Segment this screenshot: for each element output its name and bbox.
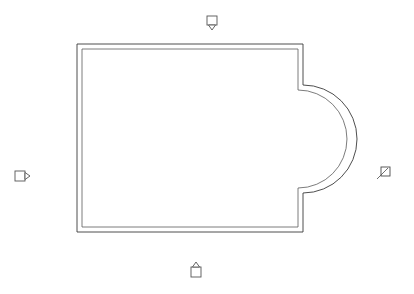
wall-outer-outline xyxy=(77,44,357,232)
arc-node-square[interactable] xyxy=(381,167,390,176)
view-marker-left-hitbox[interactable] xyxy=(10,166,34,186)
floor-plan-svg[interactable] xyxy=(0,0,414,294)
view-marker-left[interactable] xyxy=(10,166,34,186)
building-walls[interactable] xyxy=(77,44,357,232)
view-marker-top-hitbox[interactable] xyxy=(202,11,222,35)
view-marker-top[interactable] xyxy=(202,11,222,35)
drawing-canvas[interactable] xyxy=(0,0,414,294)
wall-inner-outline xyxy=(82,49,347,227)
view-marker-bottom[interactable] xyxy=(186,257,206,281)
arc-control-node[interactable] xyxy=(377,167,390,179)
view-marker-bottom-hitbox[interactable] xyxy=(186,257,206,281)
